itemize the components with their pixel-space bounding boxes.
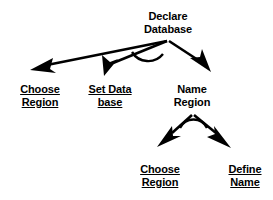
node-choose-region-1-line1: Choose (20, 83, 60, 96)
node-name-region-line2: Region (174, 96, 211, 109)
node-name-region[interactable]: Name Region (174, 83, 211, 109)
node-choose-region-2-line2: Region (140, 176, 180, 189)
node-set-database-line1: Set Data (88, 83, 131, 96)
edge-root-to-name-region (169, 41, 211, 72)
node-choose-region-2-line1: Choose (140, 163, 180, 176)
node-name-region-line1: Name (174, 83, 211, 96)
node-declare-database-line2: Database (144, 23, 192, 36)
diagram-canvas: Declare Database Choose Region Set Data … (0, 0, 273, 200)
node-define-name-line2: Name (228, 176, 261, 189)
node-choose-region-1-line2: Region (20, 96, 60, 109)
node-define-name[interactable]: Define Name (228, 163, 261, 189)
node-set-database[interactable]: Set Data base (88, 83, 131, 109)
node-define-name-line1: Define (228, 163, 261, 176)
node-set-database-line2: base (88, 96, 131, 109)
node-declare-database[interactable]: Declare Database (144, 10, 192, 36)
node-declare-database-line1: Declare (144, 10, 192, 23)
edge-root-to-choose-region (30, 41, 167, 73)
node-choose-region-1[interactable]: Choose Region (20, 83, 60, 109)
node-choose-region-2[interactable]: Choose Region (140, 163, 180, 189)
